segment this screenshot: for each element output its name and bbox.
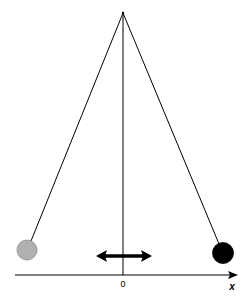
left-string: [31, 13, 123, 241]
origin-label: 0: [120, 279, 125, 289]
pivot-point: [122, 12, 124, 14]
pendulum-diagram: 0 x: [0, 0, 248, 308]
left-bob: [17, 240, 37, 260]
right-string: [123, 13, 219, 244]
double-arrow-icon: [96, 250, 152, 262]
right-bob: [213, 243, 234, 264]
axis-label-x: x: [228, 281, 235, 292]
